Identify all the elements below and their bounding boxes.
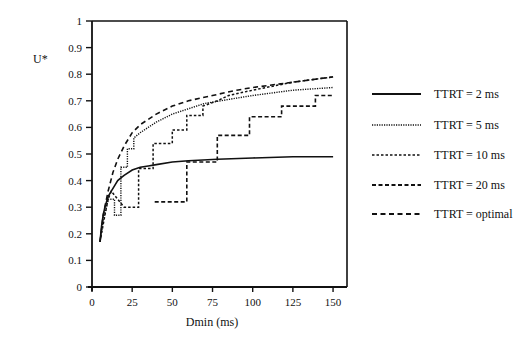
x-tick-label: 25 (127, 296, 139, 308)
legend-label: TTRT = 5 ms (434, 118, 499, 132)
x-tick-label: 150 (325, 296, 342, 308)
series-line (100, 88, 333, 242)
y-tick-label: 0.4 (68, 175, 82, 187)
y-tick-label: 0.8 (68, 68, 82, 80)
legend-label: TTRT = 10 ms (434, 148, 505, 162)
legend-label: TTRT = 20 ms (434, 178, 505, 192)
chart: 00.10.20.30.40.50.60.70.80.91 0255075100… (0, 0, 530, 353)
y-axis-ticks: 00.10.20.30.40.50.60.70.80.91 (68, 15, 92, 293)
x-tick-label: 50 (167, 296, 179, 308)
y-tick-label: 0.1 (68, 254, 82, 266)
y-tick-label: 0 (77, 281, 83, 293)
data-series (100, 77, 333, 242)
series-line (155, 96, 333, 202)
x-tick-label: 75 (207, 296, 219, 308)
legend-label: TTRT = 2 ms (434, 87, 499, 101)
series-line (100, 157, 333, 242)
y-tick-label: 1 (77, 15, 83, 27)
x-axis-ticks: 0255075100125150 (89, 287, 342, 308)
legend-label: TTRT = optimal (434, 207, 513, 221)
x-tick-label: 100 (244, 296, 261, 308)
y-tick-label: 0.2 (68, 228, 82, 240)
x-tick-label: 125 (285, 296, 302, 308)
y-tick-label: 0.7 (68, 95, 82, 107)
y-tick-label: 0.3 (68, 201, 82, 213)
legend: TTRT = 2 msTTRT = 5 msTTRT = 10 msTTRT =… (372, 87, 513, 221)
y-tick-label: 0.9 (68, 42, 82, 54)
y-tick-label: 0.6 (68, 121, 82, 133)
x-tick-label: 0 (89, 296, 95, 308)
y-axis-title: U* (33, 52, 48, 66)
y-tick-label: 0.5 (68, 148, 82, 160)
x-axis-title: Dmin (ms) (186, 315, 238, 329)
